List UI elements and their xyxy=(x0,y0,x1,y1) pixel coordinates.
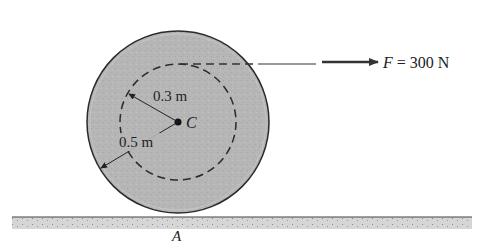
force-value: = 300 N xyxy=(393,54,450,71)
diagram-canvas: 0.3 m 0.5 m C A F = 300 N xyxy=(0,0,494,250)
wheel-diagram: 0.3 m 0.5 m C A F = 300 N xyxy=(0,0,494,250)
ground xyxy=(12,217,472,229)
inner-radius-label: 0.3 m xyxy=(153,88,188,104)
center-label: C xyxy=(186,114,197,131)
outer-radius-label: 0.5 m xyxy=(119,134,154,150)
force-label: F = 300 N xyxy=(382,54,450,71)
ground-surface xyxy=(12,217,472,229)
contact-point-label: A xyxy=(171,228,182,244)
force-symbol: F xyxy=(382,54,393,71)
